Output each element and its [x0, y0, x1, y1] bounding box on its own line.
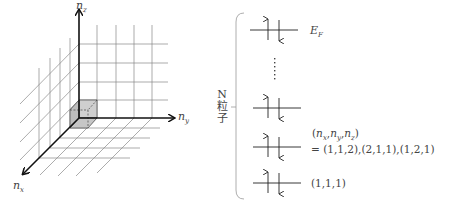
energy-levels: [250, 19, 301, 194]
axes: [23, 10, 174, 174]
xy-plane-grid: [39, 118, 160, 176]
x-axis-label: nx: [13, 179, 24, 194]
y-axis-label: ny: [178, 110, 189, 125]
xz-plane-grid: [20, 38, 79, 160]
bracket: [236, 13, 244, 199]
fermi-energy-label: EF: [310, 24, 323, 39]
x-axis: [23, 118, 79, 174]
level1-label: (1,1,1): [311, 177, 346, 189]
z-axis-label: nz: [76, 0, 87, 14]
ellipsis-dots: [274, 58, 275, 79]
level2-values-label: = (1,1,2),(2,1,1),(1,2,1): [311, 143, 435, 155]
bracket-label: N 粒 子: [215, 89, 229, 125]
level2-tuple-label: (nx,ny,nz): [312, 127, 359, 142]
